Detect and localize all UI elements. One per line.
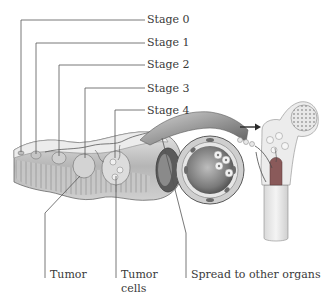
tumor-label: Tumor: [50, 268, 87, 281]
tumor-cells-label-line1: Tumor: [121, 268, 158, 281]
stage-1-label: Stage 1: [147, 36, 190, 49]
tumor-cells-label-line2: cells: [121, 282, 146, 295]
stage-3-label: Stage 3: [147, 82, 190, 95]
stage-4-label: Stage 4: [147, 104, 190, 117]
spread-label: Spread to other organs: [191, 268, 321, 281]
bone-illustration: [255, 102, 318, 241]
stage-2-label: Stage 2: [147, 58, 190, 71]
colon-cancer-stages-diagram: Stage 0 Stage 1 Stage 2 Stage 3 Stage 4 …: [0, 0, 325, 307]
stage-0-label: Stage 0: [147, 13, 190, 26]
colon-illustration: [14, 132, 183, 201]
